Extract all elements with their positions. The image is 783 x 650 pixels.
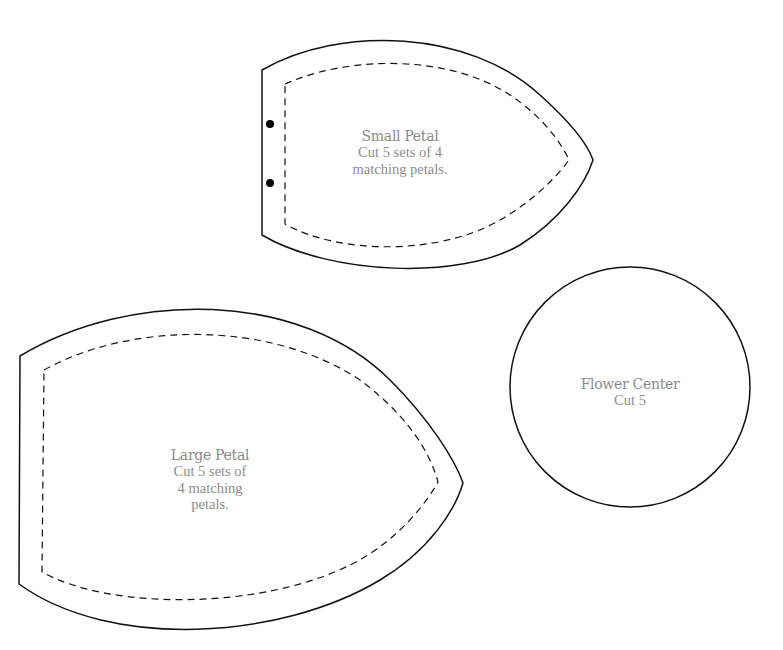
large-petal-label: Large Petal Cut 5 sets of 4 matching pet… — [150, 447, 270, 513]
flower-center-title: Flower Center — [565, 376, 695, 392]
small-petal-title: Small Petal — [330, 128, 470, 144]
pattern-sheet — [0, 0, 783, 650]
large-petal-title: Large Petal — [150, 447, 270, 463]
flower-center-instruction: Cut 5 — [565, 392, 695, 409]
large-petal-instruction-1: Cut 5 sets of — [150, 463, 270, 480]
small-petal-instruction-1: Cut 5 sets of 4 — [330, 144, 470, 161]
notch-dot-top — [266, 120, 274, 128]
small-petal-instruction-2: matching petals. — [330, 161, 470, 178]
large-petal-instruction-3: petals. — [150, 496, 270, 513]
flower-center-label: Flower Center Cut 5 — [565, 376, 695, 409]
large-petal-instruction-2: 4 matching — [150, 480, 270, 497]
notch-dot-bottom — [266, 179, 274, 187]
small-petal-label: Small Petal Cut 5 sets of 4 matching pet… — [330, 128, 470, 177]
